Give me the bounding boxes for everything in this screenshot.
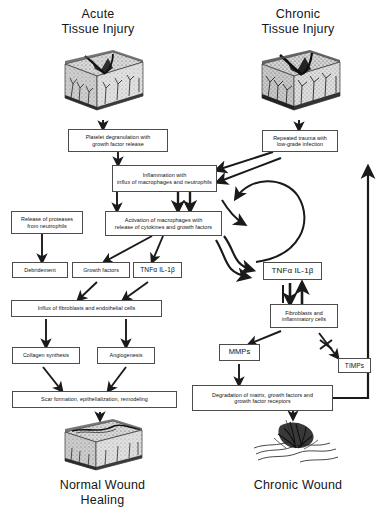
platelet-line2: growth factor release [86,141,151,147]
header-acute-line2: Tissue Injury [43,22,153,37]
node-tnf-il1b-left[interactable]: TNFα IL-1β [133,262,182,278]
node-growth-factors[interactable]: Growth factors [72,262,130,278]
fibroblasts-line2: inflammatory cells [282,316,326,322]
illustration-chronic-tissue-block [258,48,343,118]
header-chronic-line2: Tissue Injury [243,22,353,37]
footer-chronic-wound: Chronic Wound [238,478,358,493]
tnf-right-label: TNFα IL-1β [272,266,314,275]
proteases-line1: Release of proteases [21,216,73,222]
activation-line2: release of cytokines and growth factors [115,224,212,230]
illustration-acute-tissue-block [61,48,146,118]
node-timps[interactable]: TIMPs [338,358,371,373]
header-acute-line1: Acute [43,7,153,22]
node-scar-formation[interactable]: Scar formation, epithelialization, remod… [12,391,177,408]
illustration-chronic-wound-block [250,418,346,476]
activation-line1: Activation of macrophages with [115,217,212,223]
node-tnf-il1b-right[interactable]: TNFα IL-1β [263,262,322,280]
debridement-label: Debridement [24,267,55,273]
diagram-canvas: Acute Tissue Injury Chronic Tissue Injur… [0,0,383,523]
node-activation-of-macrophages[interactable]: Activation of macrophages with release o… [105,211,222,236]
collagen-label: Collagen synthesis [23,352,69,358]
header-chronic-tissue-injury: Chronic Tissue Injury [243,7,353,38]
footer-left-line1: Normal Wound [45,478,160,493]
growth-factors-label: Growth factors [83,267,119,273]
node-release-of-proteases[interactable]: Release of proteases from neutrophils [11,211,83,234]
node-fibroblasts-inflammatory-cells[interactable]: Fibroblasts and inflammatory cells [270,304,338,328]
angiogenesis-label: Angiogenesis [110,352,143,358]
mmps-label: MMPs [229,348,251,357]
platelet-line1: Platelet degranulation with [86,134,151,140]
header-chronic-line1: Chronic [243,7,353,22]
node-mmps[interactable]: MMPs [219,344,260,361]
node-platelet-degranulation[interactable]: Platelet degranulation with growth facto… [68,129,168,152]
repeated-trauma-line2: low-grade infection [273,141,327,147]
timps-label: TIMPs [345,362,364,370]
footer-normal-wound-healing: Normal Wound Healing [45,478,160,509]
node-degradation-of-matrix[interactable]: Degradation of matrix, growth factors an… [192,385,333,411]
node-repeated-trauma[interactable]: Repeated trauma with low-grade infection [262,130,338,152]
proteases-line2: from neutrophils [21,223,73,229]
node-angiogenesis[interactable]: Angiogenesis [97,347,155,364]
node-influx-fibroblasts-endothelial[interactable]: Influx of fibroblasts and endothelial ce… [11,300,162,317]
footer-right-line1: Chronic Wound [238,478,358,493]
inflammation-line2: influx of macrophages and neutrophils [117,179,212,185]
footer-left-line2: Healing [45,493,160,508]
illustration-healed-wound-block [60,418,146,476]
scar-label: Scar formation, epithelialization, remod… [41,396,148,402]
node-collagen-synthesis[interactable]: Collagen synthesis [12,347,80,364]
tnf-left-label: TNFα IL-1β [140,266,175,274]
degradation-line2: growth factor receptors [212,398,313,404]
influx-label: Influx of fibroblasts and endothelial ce… [38,305,135,311]
node-debridement[interactable]: Debridement [12,262,68,278]
header-acute-tissue-injury: Acute Tissue Injury [43,7,153,38]
node-inflammation[interactable]: Inflammation with influx of macrophages … [112,165,217,192]
